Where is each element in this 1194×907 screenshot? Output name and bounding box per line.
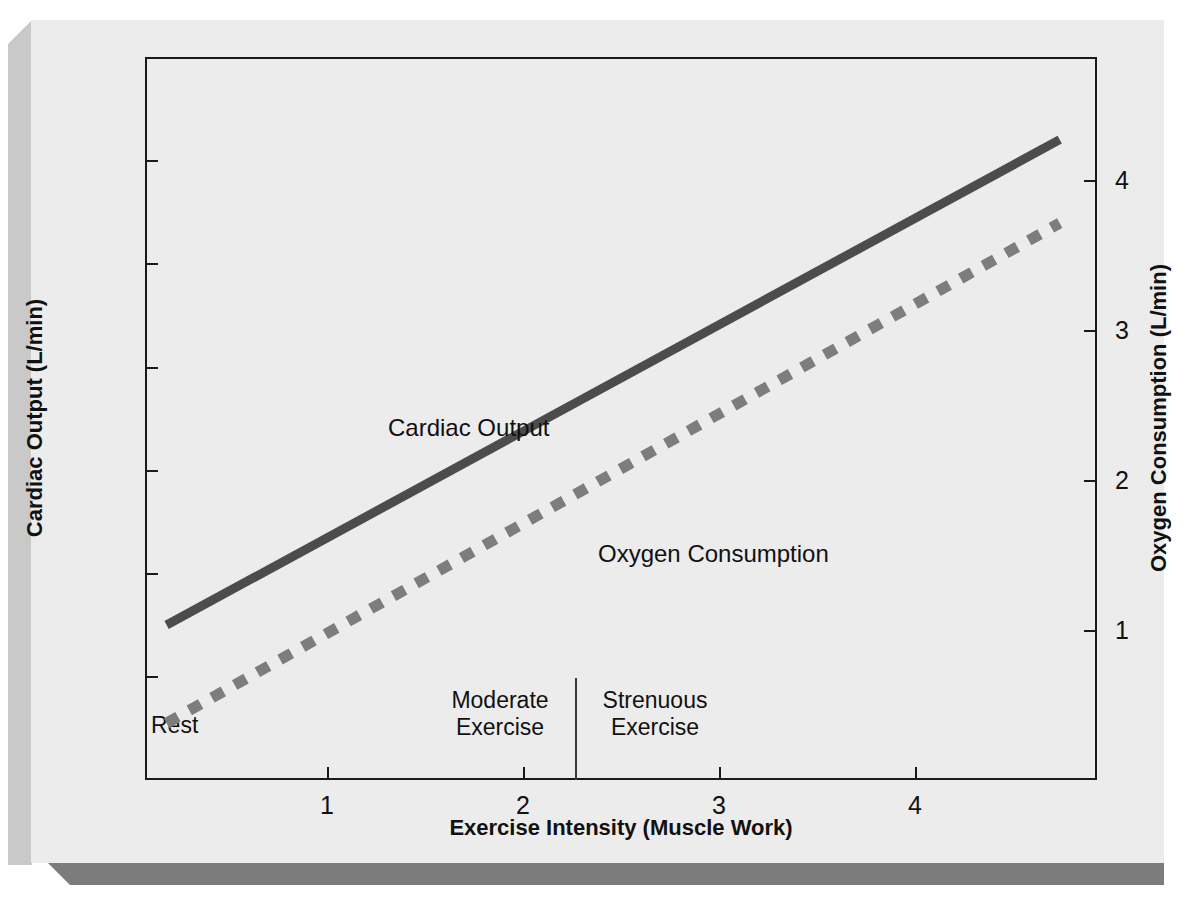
right-tick-label-1: 1 [1115,616,1129,645]
x-axis-title: Exercise Intensity (Muscle Work) [449,815,792,841]
left-axis-title: Cardiac Output (L/min) [22,299,48,537]
oxygen-consumption-line [167,223,1060,723]
figure-root: Cardiac Output (L/min) Oxygen Consumptio… [0,0,1194,907]
right-tick-label-2: 2 [1115,466,1129,495]
annotation-oxygen-consumption: Oxygen Consumption [598,540,829,568]
x-tick-label-2: 2 [516,791,530,820]
x-tick-label-4: 4 [908,791,922,820]
data-lines [145,57,1097,780]
plot-area: 35 30 25 20 15 10 5 0 4 3 2 1 1 2 3 4 Re… [145,57,1097,780]
right-tick-label-3: 3 [1115,316,1129,345]
right-tick-label-4: 4 [1115,166,1129,195]
annotation-cardiac-output: Cardiac Output [388,414,549,442]
x-tick-label-1: 1 [320,791,334,820]
right-axis-title: Oxygen Consumption (L/min) [1146,264,1172,572]
card-bottom-bevel [47,862,1164,885]
x-tick-label-3: 3 [712,791,726,820]
